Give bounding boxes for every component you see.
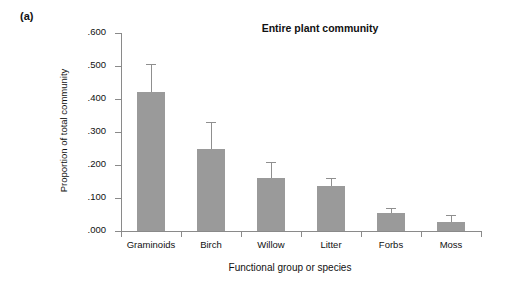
x-tick-label: Moss xyxy=(421,239,481,250)
y-tick: .200 xyxy=(115,165,121,166)
y-tick: .300 xyxy=(115,132,121,133)
x-tick xyxy=(121,231,122,237)
error-bar-cap xyxy=(266,162,276,163)
x-tick xyxy=(181,231,182,237)
x-tick-label: Birch xyxy=(181,239,241,250)
y-tick-label: .100 xyxy=(88,191,107,202)
y-tick-label: .200 xyxy=(88,158,107,169)
figure-panel: (a) Entire plant community Proportion of… xyxy=(0,0,512,285)
bar xyxy=(377,213,405,231)
x-tick-label: Willow xyxy=(241,239,301,250)
y-tick: .500 xyxy=(115,66,121,67)
error-bar-line xyxy=(151,64,152,92)
bar xyxy=(257,178,285,231)
y-tick: .100 xyxy=(115,198,121,199)
x-tick xyxy=(361,231,362,237)
error-bar-line xyxy=(331,178,332,186)
x-tick xyxy=(241,231,242,237)
x-axis-title: Functional group or species xyxy=(120,262,460,273)
bar xyxy=(437,222,465,231)
y-axis-line xyxy=(121,33,122,232)
x-tick xyxy=(481,231,482,237)
y-tick-label: .400 xyxy=(88,92,107,103)
error-bar-cap xyxy=(326,178,336,179)
error-bar-line xyxy=(211,122,212,149)
bar xyxy=(317,186,345,231)
x-tick-label: Graminoids xyxy=(121,239,181,250)
panel-letter-label: (a) xyxy=(20,10,33,22)
error-bar-cap xyxy=(206,122,216,123)
y-axis-title: Proportion of total community xyxy=(58,31,69,231)
y-tick: .600 xyxy=(115,33,121,34)
y-tick-label: .600 xyxy=(88,26,107,37)
y-tick-label: .500 xyxy=(88,59,107,70)
y-tick: .400 xyxy=(115,99,121,100)
bar xyxy=(137,92,165,231)
x-tick xyxy=(421,231,422,237)
error-bar-line xyxy=(271,162,272,178)
error-bar-cap xyxy=(446,215,456,216)
plot-area: .600.500.400.300.200.100.000 GraminoidsB… xyxy=(121,33,481,231)
y-tick-label: .000 xyxy=(88,224,107,235)
x-tick xyxy=(301,231,302,237)
x-tick-label: Forbs xyxy=(361,239,421,250)
x-tick-label: Litter xyxy=(301,239,361,250)
error-bar-cap xyxy=(386,208,396,209)
error-bar-cap xyxy=(146,64,156,65)
bar xyxy=(197,149,225,231)
y-tick-label: .300 xyxy=(88,125,107,136)
